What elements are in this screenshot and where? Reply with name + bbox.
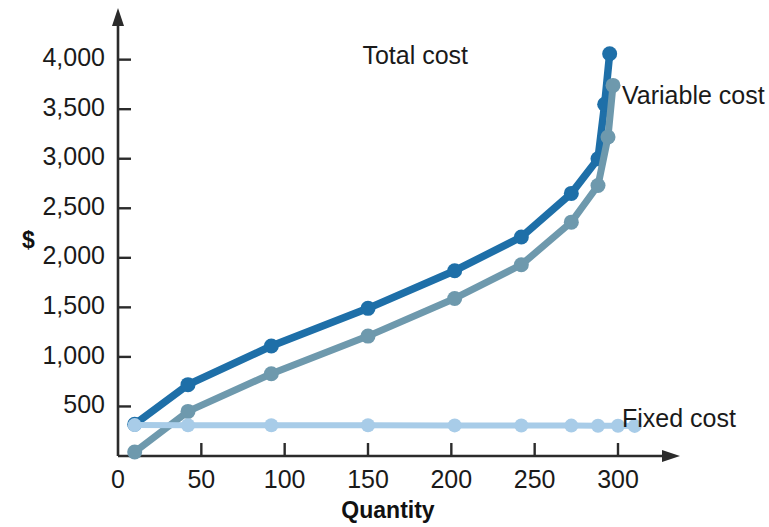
x-tick-label: 100 [264,465,306,493]
y-tick-label: 1,000 [42,341,105,369]
x-tick-label: 300 [597,465,639,493]
data-point-marker [564,215,579,230]
x-axis-ticks [201,443,618,456]
data-point-marker [514,418,528,432]
series-layer [127,46,642,459]
y-tick-label: 4,000 [42,43,105,71]
y-axis-title: $ [22,227,35,253]
x-axis-arrow-icon [662,450,680,462]
data-point-marker [564,419,578,433]
data-point-marker [447,291,462,306]
data-point-marker [181,377,196,392]
data-point-marker [591,419,605,433]
chart-canvas: 5001,0001,5002,0002,5003,0003,5004,000 0… [0,0,769,527]
y-axis-ticks [118,60,131,407]
x-tick-label: 250 [514,465,556,493]
data-point-marker [128,418,142,432]
series-fixed-cost [128,418,642,433]
data-point-marker [127,445,142,460]
y-tick-label: 2,500 [42,192,105,220]
x-tick-label: 0 [111,465,125,493]
data-point-marker [264,339,279,354]
series-label-total-cost: Total cost [362,41,468,69]
data-point-marker [514,230,529,245]
data-point-marker [447,263,462,278]
series-label-variable-cost: Variable cost [622,81,765,109]
x-tick-label: 50 [187,465,215,493]
y-tick-label: 1,500 [42,291,105,319]
series-variable-cost [127,78,620,460]
y-axis [112,8,124,456]
data-point-marker [448,418,462,432]
series-line [135,85,613,452]
series-total-cost [127,46,617,432]
series-inline-labels: Total costVariable costFixed cost [362,41,764,432]
x-axis-tick-labels: 050100150200250300 [111,465,639,493]
x-axis-title: Quantity [341,497,434,523]
data-point-marker [264,366,279,381]
data-point-marker [514,257,529,272]
y-tick-label: 3,500 [42,93,105,121]
data-point-marker [602,46,617,61]
data-point-marker [181,418,195,432]
data-point-marker [181,404,196,419]
y-tick-label: 2,000 [42,241,105,269]
x-tick-label: 200 [430,465,472,493]
data-point-marker [606,78,621,93]
data-point-marker [264,418,278,432]
y-axis-tick-labels: 5001,0001,5002,0002,5003,0003,5004,000 [42,43,105,418]
x-tick-label: 150 [347,465,389,493]
data-point-marker [591,178,606,193]
series-line [135,425,635,426]
data-point-marker [361,329,376,344]
data-point-marker [601,129,616,144]
series-label-fixed-cost: Fixed cost [622,404,736,432]
cost-curves-chart: 5001,0001,5002,0002,5003,0003,5004,000 0… [0,0,769,527]
y-tick-label: 3,000 [42,142,105,170]
series-line [135,54,610,425]
y-tick-label: 500 [63,390,105,418]
y-axis-arrow-icon [112,8,124,26]
data-point-marker [564,186,579,201]
data-point-marker [361,301,376,316]
data-point-marker [361,418,375,432]
